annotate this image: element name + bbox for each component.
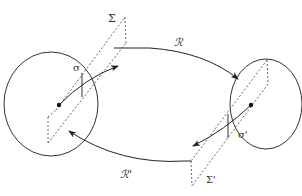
sigma-plane [48,17,126,143]
sigma-plane-edge-lower [48,43,126,143]
R-prime-arrow [69,131,191,161]
R-arrow [114,48,238,79]
sigma-plane-prime-edge-right [267,60,268,84]
sigma-plane-edge-upper [56,17,125,110]
sigma-plane-label: Σ [108,12,116,25]
sigma-plane-prime-label: Σ' [206,174,216,185]
sigma-plane-prime-edge-upper [191,60,267,161]
sigma-section-label: σ [73,62,80,73]
R-prime-label: ℛ' [120,168,132,181]
sigma-plane-edge-left-top [48,110,56,117]
sigma-plane-edge-right [125,17,126,43]
R-label: ℛ [174,36,184,49]
sigma-plane-prime-edge-left [191,161,192,186]
dynamical-systems-diagram: Σ σ ℛ ℛ' σ' Σ' [0,0,302,196]
sigma-section-prime-label: σ' [238,129,248,140]
